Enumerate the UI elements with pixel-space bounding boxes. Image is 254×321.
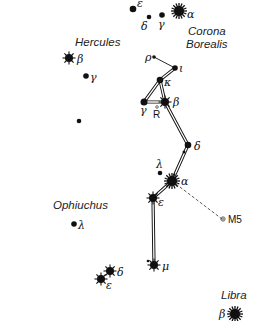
constellation-hercules: Hercules <box>75 36 121 48</box>
star-ser-delta <box>185 142 192 149</box>
label-crb-alpha: α <box>187 8 195 21</box>
star-crb-alpha <box>171 3 187 19</box>
star-ser-mu-companion <box>147 260 150 263</box>
label-oph-epsilon: ε <box>106 279 112 292</box>
label-ser-gamma: γ <box>140 104 147 117</box>
star-ser-alpha <box>164 173 180 189</box>
label-crb-delta: δ <box>141 20 148 33</box>
label-m5: M5 <box>228 214 242 225</box>
label-ser-alpha: α <box>181 175 189 188</box>
star-chart: ε δ γ α Corona Borealis Hercules β γ ρ ι… <box>0 0 254 321</box>
constellation-ophiuchus: Ophiuchus <box>53 199 108 211</box>
label-crb-gamma: γ <box>158 18 165 31</box>
label-crb-epsilon: ε <box>137 0 143 10</box>
star-ser-kappa <box>157 77 164 84</box>
label-her-beta: β <box>76 53 83 66</box>
constellation-corona-borealis-line1: Corona <box>188 25 226 37</box>
label-lib-beta: β <box>218 308 225 321</box>
star-oph-delta <box>104 265 117 278</box>
m5-cluster-icon <box>221 217 225 221</box>
star-ser-rho <box>152 55 156 59</box>
star-lib-beta <box>227 306 243 321</box>
star-ser-beta <box>159 96 172 109</box>
star-ser-lambda <box>158 171 163 176</box>
star-crb-epsilon <box>130 6 137 13</box>
label-ser-rho: ρ <box>144 51 152 64</box>
star-crb-delta <box>147 15 152 20</box>
label-ser-delta: δ <box>194 140 201 153</box>
star-ser-mu <box>148 259 161 272</box>
label-ser-r: R <box>153 109 160 120</box>
constellation-corona-borealis-line2: Borealis <box>186 38 228 50</box>
star-ser-unlabeled <box>183 151 186 154</box>
label-oph-delta: δ <box>117 266 124 279</box>
label-ser-lambda: λ <box>155 158 163 171</box>
label-ser-beta: β <box>172 96 179 109</box>
label-ser-mu: μ <box>162 260 169 273</box>
constellation-libra: Libra <box>221 289 247 301</box>
m5-pointer-line <box>172 181 222 219</box>
star-crb-gamma <box>159 12 165 18</box>
label-ser-epsilon: ε <box>158 196 164 209</box>
label-her-gamma: γ <box>90 71 97 84</box>
star-ser-r-variable <box>156 106 159 109</box>
label-ser-kappa: κ <box>163 76 172 89</box>
star-her-unlabeled <box>77 119 82 124</box>
label-oph-lambda: λ <box>77 219 85 232</box>
star-ser-iota <box>172 65 178 71</box>
label-ser-iota: ι <box>179 62 183 75</box>
star-her-gamma <box>83 73 89 79</box>
star-her-beta <box>63 52 76 65</box>
star-oph-lambda <box>71 221 77 227</box>
